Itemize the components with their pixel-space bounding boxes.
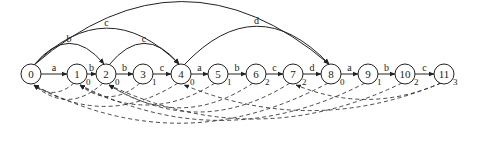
state-label: 3 bbox=[140, 68, 146, 80]
state-node-6: 62 bbox=[246, 64, 270, 87]
state-node-7: 72 bbox=[283, 64, 307, 87]
state-subscript: 2 bbox=[302, 77, 307, 87]
state-label: 4 bbox=[178, 68, 184, 80]
chain-edge-label: a bbox=[197, 62, 202, 73]
state-node-3: 31 bbox=[133, 64, 157, 87]
state-node-8: 80 bbox=[321, 64, 345, 87]
chain-edge-label: a bbox=[347, 62, 352, 73]
state-subscript: 1 bbox=[377, 77, 382, 87]
state-label: 2 bbox=[103, 68, 109, 80]
failure-link-9-to-1 bbox=[80, 83, 365, 120]
chain-edge-label: d bbox=[310, 62, 315, 73]
arc-edge-0-to-8 bbox=[34, 2, 329, 65]
state-node-5: 51 bbox=[208, 64, 232, 87]
state-label: 10 bbox=[400, 68, 412, 80]
chain-edge-label: c bbox=[272, 62, 277, 73]
state-subscript: 2 bbox=[265, 77, 270, 87]
skip-arcs: bcdcd bbox=[34, 0, 329, 65]
failure-links bbox=[34, 83, 441, 123]
state-label: 9 bbox=[365, 68, 371, 80]
state-subscript: 2 bbox=[414, 77, 419, 87]
state-label: 1 bbox=[74, 68, 80, 80]
diagram-canvas: bcdcd abbcabcdabc 0102031405162728091102… bbox=[0, 0, 477, 143]
chain-edge-label: c bbox=[422, 62, 427, 73]
chain-edge-label: b bbox=[122, 62, 127, 73]
arc-edge-label: d bbox=[254, 15, 259, 26]
chain-edge-label: b bbox=[235, 62, 240, 73]
failure-link-1-to-0 bbox=[34, 83, 74, 92]
state-label: 11 bbox=[439, 68, 450, 80]
state-node-11: 113 bbox=[434, 64, 458, 87]
arc-edge-label: c bbox=[142, 33, 147, 44]
arc-edge-4-to-8 bbox=[184, 26, 329, 65]
state-node-9: 91 bbox=[358, 64, 382, 87]
state-label: 0 bbox=[28, 68, 34, 80]
state-label: 8 bbox=[328, 68, 334, 80]
state-subscript: 3 bbox=[453, 77, 458, 87]
failure-link-7-to-2 bbox=[109, 83, 290, 112]
failure-link-11-to-4 bbox=[184, 83, 441, 111]
chain-edge-label: b bbox=[89, 62, 94, 73]
state-label: 6 bbox=[253, 68, 259, 80]
state-label: 5 bbox=[215, 68, 221, 80]
automaton-diagram: bcdcd abbcabcdabc 0102031405162728091102… bbox=[0, 0, 477, 143]
state-node-2: 20 bbox=[96, 64, 120, 87]
state-subscript: 0 bbox=[340, 77, 345, 87]
state-node-4: 40 bbox=[171, 64, 195, 87]
state-subscript: 1 bbox=[227, 77, 232, 87]
state-subscript: 1 bbox=[152, 77, 157, 87]
chain-edge-label: c bbox=[160, 62, 165, 73]
state-subscript: 0 bbox=[190, 77, 195, 87]
state-node-1: 10 bbox=[67, 64, 91, 87]
state-label: 7 bbox=[290, 68, 296, 80]
state-node-10: 102 bbox=[395, 64, 419, 87]
state-nodes: 0102031405162728091102113 bbox=[21, 64, 458, 87]
chain-edge-label: b bbox=[384, 62, 389, 73]
chain-edge-label: a bbox=[52, 62, 57, 73]
state-node-0: 0 bbox=[21, 64, 41, 84]
state-subscript: 0 bbox=[86, 77, 91, 87]
state-subscript: 0 bbox=[115, 77, 120, 87]
